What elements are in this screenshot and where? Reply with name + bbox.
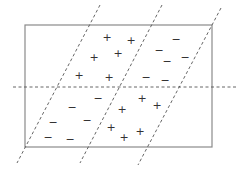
plus-marker: + <box>135 125 144 138</box>
minus-marker: − <box>67 101 76 114</box>
plus-marker: + <box>152 99 161 112</box>
minus-marker: − <box>160 74 169 87</box>
minus-marker: − <box>43 131 52 144</box>
diagonal-divider-1 <box>17 5 100 163</box>
bounding-rectangle <box>25 25 212 147</box>
minus-marker: − <box>65 133 74 146</box>
plus-marker: + <box>74 69 83 82</box>
plus-marker: + <box>102 31 111 44</box>
plus-marker: + <box>117 103 126 116</box>
minus-marker: − <box>93 92 102 105</box>
minus-marker: − <box>141 71 150 84</box>
plus-marker: + <box>126 34 135 47</box>
minus-marker: − <box>162 55 171 68</box>
class-markers: ++++++−−−−−−−−−−−−++++++ <box>43 31 189 146</box>
plus-marker: + <box>104 71 113 84</box>
classification-diagram: ++++++−−−−−−−−−−−−++++++ <box>0 0 243 179</box>
minus-marker: − <box>48 116 57 129</box>
plus-marker: + <box>89 51 98 64</box>
plus-marker: + <box>119 131 128 144</box>
minus-marker: − <box>82 114 91 127</box>
plus-marker: + <box>106 121 115 134</box>
minus-marker: − <box>180 51 189 64</box>
minus-marker: − <box>171 33 180 46</box>
plus-marker: + <box>137 92 146 105</box>
plus-marker: + <box>113 47 122 60</box>
